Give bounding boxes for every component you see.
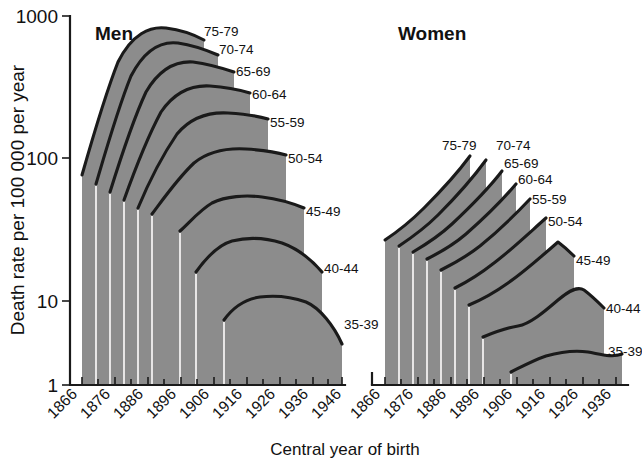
men-label-65-69: 65-69 (236, 64, 271, 79)
y-ticks (62, 16, 70, 385)
ytick-label-10: 10 (37, 291, 58, 312)
men-xlabel-1876: 1876 (77, 385, 113, 421)
panel-men: 75-79 70-74 65-69 60-64 55-59 50-54 45-4… (62, 16, 379, 385)
women-label-65-69: 65-69 (504, 156, 539, 171)
men-xlabel-1886: 1886 (110, 385, 146, 421)
women-x-tick-labels: 1866 1876 1886 1896 1906 1916 1926 1936 (347, 385, 614, 421)
women-label-75-79: 75-79 (442, 138, 477, 153)
women-xlabel-1886: 1886 (413, 385, 449, 421)
y-axis-title: Death rate per 100 000 per year (7, 64, 28, 335)
women-label-35-39: 35-39 (608, 344, 642, 359)
men-label-55-59: 55-59 (270, 115, 305, 130)
ytick-label-1: 1 (47, 375, 58, 396)
men-xlabel-1906: 1906 (176, 385, 212, 421)
women-xlabel-1866: 1866 (347, 385, 383, 421)
ytick-label-1000: 1000 (16, 6, 58, 27)
men-label-35-39: 35-39 (344, 317, 379, 332)
men-xlabel-1936: 1936 (275, 385, 311, 421)
men-label-70-74: 70-74 (219, 42, 254, 57)
panel-women: 75-79 70-74 65-69 60-64 55-59 50-54 45-4… (372, 23, 642, 385)
men-label-40-44: 40-44 (324, 261, 359, 276)
women-label-50-54: 50-54 (548, 214, 583, 229)
women-label-45-49: 45-49 (576, 253, 611, 268)
men-xlabel-1916: 1916 (209, 385, 245, 421)
men-xlabel-1926: 1926 (242, 385, 278, 421)
women-xlabel-1916: 1916 (512, 385, 548, 421)
women-xlabel-1876: 1876 (380, 385, 416, 421)
men-band-35-39 (224, 296, 342, 385)
men-label-45-49: 45-49 (306, 204, 341, 219)
panel-title-women: Women (398, 23, 466, 44)
x-axis-title: Central year of birth (270, 440, 419, 459)
women-xlabel-1906: 1906 (479, 385, 515, 421)
women-label-40-44: 40-44 (606, 301, 641, 316)
women-label-60-64: 60-64 (518, 172, 553, 187)
men-label-60-64: 60-64 (252, 87, 287, 102)
men-label-50-54: 50-54 (288, 151, 323, 166)
men-xlabel-1896: 1896 (143, 385, 179, 421)
panel-title-men: Men (95, 23, 133, 44)
men-x-tick-labels: 1866 1876 1886 1896 1906 1916 1926 1936 … (44, 385, 344, 421)
women-label-70-74: 70-74 (496, 138, 531, 153)
women-xlabel-1936: 1936 (578, 385, 614, 421)
ytick-label-100: 100 (26, 148, 58, 169)
women-xlabel-1896: 1896 (446, 385, 482, 421)
women-xlabel-1926: 1926 (545, 385, 581, 421)
men-label-75-79: 75-79 (204, 24, 239, 39)
men-xlabel-1946: 1946 (308, 385, 344, 421)
women-label-55-59: 55-59 (532, 192, 567, 207)
chart-svg: 75-79 70-74 65-69 60-64 55-59 50-54 45-4… (0, 0, 642, 460)
death-rate-cohort-chart: 75-79 70-74 65-69 60-64 55-59 50-54 45-4… (0, 0, 642, 460)
